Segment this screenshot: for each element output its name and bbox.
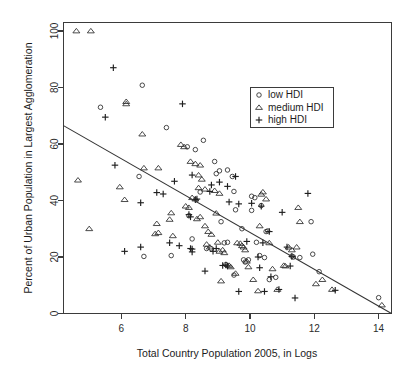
x-tick-label: 6 [119, 323, 125, 334]
x-tick-label: 12 [309, 323, 321, 334]
legend-entry-label: low HDI [268, 89, 303, 100]
scatter-plot-figure: 68101214020406080100 low HDImedium HDIhi… [0, 0, 419, 375]
y-tick-label: 0 [49, 310, 60, 316]
x-axis-title: Total Country Population 2005, in Logs [137, 347, 317, 359]
y-tick-label: 100 [49, 22, 60, 39]
y-tick-label: 40 [49, 194, 60, 206]
plot-canvas: 68101214020406080100 low HDImedium HDIhi… [0, 0, 419, 375]
legend-entry-label: high HDI [268, 114, 307, 125]
y-axis-title: Percent of Urban Population in Largest A… [22, 42, 34, 293]
figure-background [0, 0, 419, 375]
x-tick-label: 10 [244, 323, 256, 334]
y-tick-label: 80 [49, 81, 60, 93]
x-tick-label: 14 [373, 323, 385, 334]
legend-entry-label: medium HDI [268, 102, 324, 113]
legend: low HDImedium HDIhigh HDI [251, 88, 334, 128]
x-tick-label: 8 [183, 323, 189, 334]
y-tick-label: 20 [49, 251, 60, 263]
y-tick-label: 60 [49, 138, 60, 150]
